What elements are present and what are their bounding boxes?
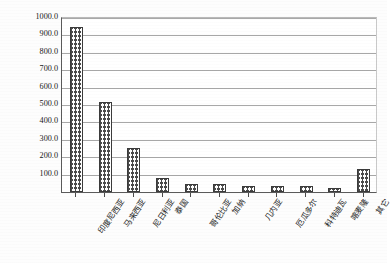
bar[interactable] [185,184,198,192]
x-axis-tick [190,193,191,197]
x-axis-tick [162,193,163,197]
y-axis-tick-label: 600.0 [20,83,58,91]
x-axis-category-label[interactable]: 其它 [374,198,390,216]
x-axis-category-label[interactable]: 印度尼西亚 [97,198,127,235]
bar-slot[interactable] [234,18,263,192]
y-axis-tick-label: 800.0 [20,48,58,56]
bar-slot[interactable] [119,18,148,192]
bar[interactable] [328,188,341,192]
x-axis-tick [305,193,306,197]
bar-slot[interactable] [292,18,321,192]
bars-layer [62,18,376,192]
y-axis-tick-label: 200.0 [20,152,58,160]
x-axis-category-label[interactable]: 尼日利亚 [151,198,176,229]
bar[interactable] [127,148,140,192]
x-axis-category-label[interactable]: 厄瓜多尔 [295,198,320,229]
x-axis-tick [334,193,335,197]
bar-slot[interactable] [206,18,235,192]
y-axis-tick-label: 300.0 [20,135,58,143]
bar-slot[interactable] [62,18,91,192]
bar[interactable] [271,186,284,192]
bar[interactable] [242,186,255,192]
x-axis-tick [219,193,220,197]
y-axis-tick-label: 900.0 [20,30,58,38]
bar[interactable] [70,27,83,192]
bar-slot[interactable] [349,18,378,192]
y-axis-tick-labels: 1000.0900.0800.0700.0600.0500.0400.0300.… [20,12,58,194]
x-axis-category-label[interactable]: 加纳 [231,198,247,216]
bar-slot[interactable] [177,18,206,192]
x-axis-tick [276,193,277,197]
x-axis-tick [104,193,105,197]
x-axis-tick [75,193,76,197]
y-axis-tick-label: 1000.0 [20,13,58,21]
x-axis-category-label[interactable]: 喀麦隆 [349,198,370,222]
bar-slot[interactable] [148,18,177,192]
x-axis-tick [133,193,134,197]
plot-area [61,17,377,193]
x-axis-category-label[interactable]: 哥伦比亚 [209,198,234,229]
bar[interactable] [213,184,226,192]
x-axis-category-label[interactable]: 泰国 [173,198,189,216]
y-axis-tick-label: 500.0 [20,100,58,108]
bar-slot[interactable] [321,18,350,192]
y-axis-tick-label: 400.0 [20,117,58,125]
bar-slot[interactable] [91,18,120,192]
x-axis-tick [248,193,249,197]
bar[interactable] [300,186,313,192]
y-axis-tick-label: 100.0 [20,170,58,178]
bar[interactable] [156,178,169,192]
x-axis-ticks [61,193,377,198]
bar[interactable] [99,102,112,192]
bar[interactable] [357,169,370,192]
x-axis-category-label[interactable]: 科特迪瓦 [323,198,348,229]
y-axis-tick-label: 700.0 [20,65,58,73]
x-axis-category-label[interactable]: 几内亚 [263,198,284,222]
x-axis-tick [363,193,364,197]
bar-slot[interactable] [263,18,292,192]
